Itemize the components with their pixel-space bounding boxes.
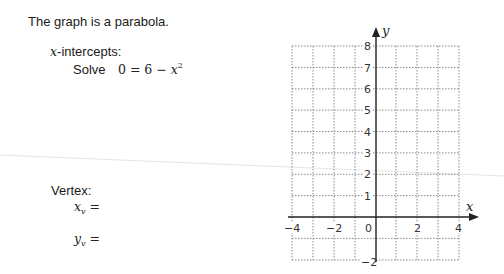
y-tick-label: 2	[364, 168, 371, 181]
y-tick-label: 8	[364, 40, 371, 53]
y-tick-label: 3	[364, 147, 371, 160]
x-tick-label: 4	[455, 222, 462, 235]
x-tick-label: −4	[284, 222, 300, 235]
y-axis-arrow-icon	[372, 27, 380, 37]
scan-artifact	[0, 155, 504, 176]
y-tick-label: 5	[364, 104, 371, 117]
y-tick-label: 4	[364, 126, 371, 139]
x-axis-label: x	[466, 199, 474, 214]
x-tick-label: 0	[365, 222, 372, 235]
y-axis-label: y	[381, 23, 390, 38]
axes	[288, 27, 479, 262]
y-tick-label: −2	[361, 256, 377, 269]
coordinate-plane: x y −4 −2 0 2 4 8 7 6 5 4 3 2 1 −2	[0, 0, 504, 274]
x-tick-label: −2	[326, 222, 342, 235]
x-axis-arrow-icon	[469, 213, 479, 221]
y-tick-label: 7	[364, 62, 371, 75]
x-tick-label: 2	[414, 222, 421, 235]
x-tick-labels: −4 −2 0 2 4	[283, 222, 463, 235]
y-tick-label: 1	[364, 190, 371, 203]
y-tick-label: 6	[364, 83, 371, 96]
